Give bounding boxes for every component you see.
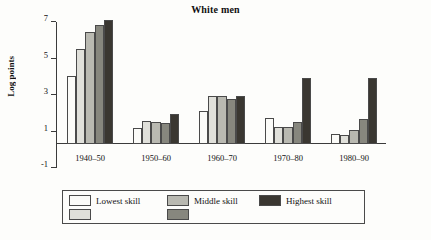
x-axis-tick-label: 1940–50 xyxy=(75,153,105,163)
legend-item[interactable]: Highest skill xyxy=(259,194,332,207)
y-axis-tick xyxy=(51,58,56,59)
bar xyxy=(302,78,311,144)
plot-area: -11357 1940–501950–601960–701970–801980–… xyxy=(56,22,386,168)
bar xyxy=(85,32,94,143)
bar xyxy=(208,96,217,143)
bar xyxy=(349,130,358,144)
y-axis-tick-label: 5 xyxy=(30,51,48,59)
bar-groups: 1940–501950–601960–701970–801980–90 xyxy=(57,22,386,168)
legend-swatch xyxy=(167,195,189,206)
x-axis-tick-label: 1960–70 xyxy=(207,153,237,163)
bar xyxy=(142,121,151,144)
bar xyxy=(67,76,76,144)
y-axis-tick-label: 1 xyxy=(30,124,48,132)
legend-label: Highest skill xyxy=(286,196,332,206)
y-axis-tick xyxy=(51,131,56,132)
chart-title: White men xyxy=(0,4,431,15)
y-axis-tick-label: 7 xyxy=(30,14,48,22)
chart-legend: Lowest skill Middle skill Highest skill xyxy=(62,190,365,224)
bar xyxy=(283,127,292,143)
legend-item[interactable] xyxy=(69,208,140,221)
bar-group: 1950–60 xyxy=(133,22,179,144)
bar-group: 1960–70 xyxy=(199,22,245,144)
legend-column-1: Lowest skill xyxy=(69,194,140,222)
bar xyxy=(95,25,104,144)
x-axis-tick-label: 1980–90 xyxy=(339,153,369,163)
bar xyxy=(331,134,340,144)
bar xyxy=(133,128,142,144)
bar xyxy=(340,135,349,143)
legend-column-2: Middle skill xyxy=(167,194,238,222)
legend-label: Middle skill xyxy=(194,196,238,206)
bar-group-bars xyxy=(199,22,245,144)
bar xyxy=(359,119,368,144)
bar-group-bars xyxy=(67,22,113,144)
bar xyxy=(170,114,179,143)
bar-group: 1940–50 xyxy=(67,22,113,144)
x-axis-tick-label: 1950–60 xyxy=(141,153,171,163)
bar xyxy=(236,96,245,143)
x-axis-tick-label: 1970–80 xyxy=(273,153,303,163)
legend-swatch xyxy=(69,195,91,206)
y-axis-tick-label: -1 xyxy=(30,160,48,168)
bar xyxy=(76,49,85,144)
y-axis-label: Log points xyxy=(6,56,20,97)
bar xyxy=(151,122,160,144)
bar xyxy=(274,127,283,143)
legend-item[interactable] xyxy=(167,208,238,221)
y-axis-tick xyxy=(51,167,56,168)
legend-item[interactable]: Lowest skill xyxy=(69,194,140,207)
bar xyxy=(104,20,113,144)
legend-column-3: Highest skill xyxy=(259,194,332,222)
bar xyxy=(293,122,302,144)
bar xyxy=(199,111,208,144)
legend-item[interactable]: Middle skill xyxy=(167,194,238,207)
bar xyxy=(217,96,226,143)
legend-swatch xyxy=(69,209,91,220)
bar-group: 1970–80 xyxy=(265,22,311,144)
chart-figure: White men Log points -11357 1940–501950–… xyxy=(0,0,431,240)
legend-label: Lowest skill xyxy=(96,196,140,206)
bar-group-bars xyxy=(331,22,377,144)
bar-group-bars xyxy=(133,22,179,144)
y-axis-tick xyxy=(51,94,56,95)
bar xyxy=(265,118,274,144)
bar xyxy=(161,123,170,144)
bar xyxy=(368,78,377,144)
bar-group: 1980–90 xyxy=(331,22,377,144)
y-axis-tick xyxy=(51,21,56,22)
y-axis-tick-label: 3 xyxy=(30,87,48,95)
bar-group-bars xyxy=(265,22,311,144)
bar xyxy=(227,99,236,144)
legend-swatch xyxy=(167,209,189,220)
legend-swatch xyxy=(259,195,281,206)
